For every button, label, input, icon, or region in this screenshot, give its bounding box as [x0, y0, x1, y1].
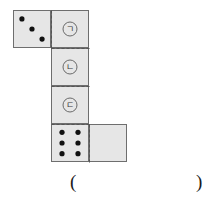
- face-digeut-label: ㄷ: [66, 100, 74, 110]
- open-paren: (: [70, 172, 76, 191]
- face-nieun-label: ㄴ: [66, 62, 74, 72]
- pip-dot: [59, 140, 64, 145]
- pip-dot: [75, 130, 80, 135]
- answer-row: ( ): [0, 168, 219, 198]
- pip-dot: [75, 151, 80, 156]
- pip-dot: [59, 130, 64, 135]
- pip-dot: [75, 140, 80, 145]
- face-giyeok-label: ㄱ: [66, 24, 74, 34]
- pip-dot: [19, 16, 24, 21]
- bottom-right-face: [89, 124, 127, 162]
- pip-dot: [39, 36, 44, 41]
- pip-dot: [59, 151, 64, 156]
- close-paren: ): [196, 172, 202, 191]
- bottom-face: [51, 124, 89, 162]
- pip-dot: [29, 26, 34, 31]
